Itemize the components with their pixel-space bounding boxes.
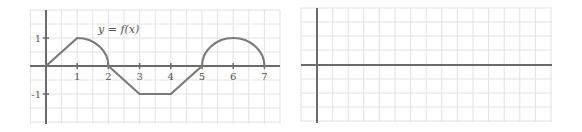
function-label: y = f(x) (97, 23, 139, 36)
x-tick-label-3: 3 (136, 71, 142, 82)
x-tick-label-1: 1 (74, 71, 80, 82)
right-graph-panel (291, 0, 582, 132)
function-graph: 1 2 3 4 5 6 7 1 -1 y = f(x) (0, 0, 291, 132)
y-tick-label-1: 1 (35, 33, 41, 44)
x-tick-label-5: 5 (199, 71, 205, 82)
blank-graph (291, 0, 582, 132)
y-tick-label-neg1: -1 (31, 89, 41, 100)
x-tick-label-4: 4 (168, 71, 174, 82)
x-tick-label-6: 6 (230, 71, 236, 82)
left-graph-panel: 1 2 3 4 5 6 7 1 -1 y = f(x) (0, 0, 291, 132)
x-tick-label-2: 2 (105, 71, 111, 82)
x-tick-label-7: 7 (261, 71, 267, 82)
